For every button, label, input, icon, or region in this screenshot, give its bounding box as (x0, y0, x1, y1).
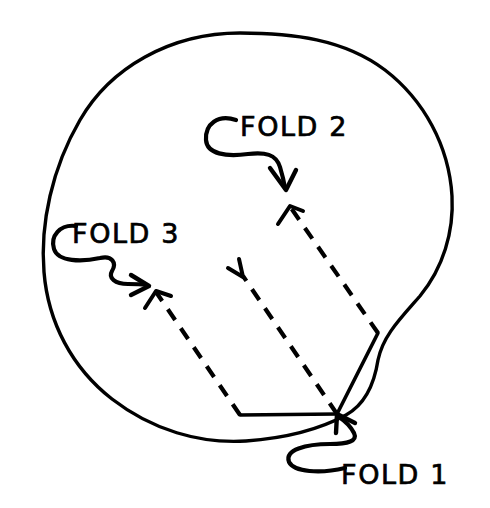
fold-1-dashed-center (243, 276, 337, 414)
fold-diagram-canvas: FOLD 2 FOLD 3 FOLD 1 (0, 0, 490, 508)
label-fold-3: FOLD 3 (72, 218, 180, 249)
label-fold-1: FOLD 1 (341, 459, 449, 490)
crease-right-edge-to-corner (337, 333, 378, 414)
fold-2-dashed-arrowhead (278, 206, 303, 224)
hand-drawn-fold-diagram: FOLD 2 FOLD 3 FOLD 1 (0, 0, 490, 508)
fold-2-dashed-right (291, 208, 378, 333)
fold-3-dashed-left (156, 292, 240, 415)
fold-1-dashed-arrowhead (228, 259, 243, 277)
label-fold-2: FOLD 2 (240, 111, 348, 142)
fold-3-dashed-arrowhead (145, 291, 171, 308)
crease-bottom-to-corner (240, 414, 337, 415)
